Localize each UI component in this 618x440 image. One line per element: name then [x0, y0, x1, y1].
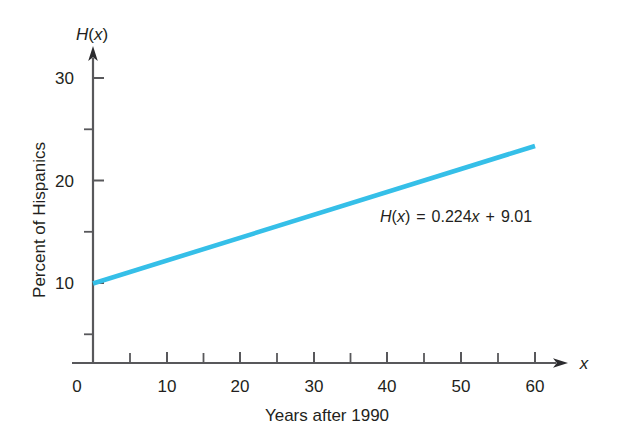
chart-figure: 30 20 10 H(x) Percent of Hispanics — [0, 0, 618, 440]
equation-plus: + — [486, 208, 495, 225]
x-tick-label-20: 20 — [231, 377, 250, 396]
equation-constant: 9.01 — [501, 208, 532, 225]
x-tick-label-50: 50 — [452, 377, 471, 396]
linear-function-chart: 30 20 10 H(x) Percent of Hispanics — [0, 0, 618, 440]
x-tick-label-40: 40 — [378, 377, 397, 396]
equation-coef-var: x — [471, 208, 481, 225]
y-axis-symbol-var: x — [93, 25, 103, 44]
equation-annotation: H(x)=0.224x+9.01 — [380, 208, 532, 225]
equation-close-paren: ) — [405, 208, 410, 225]
x-tick-label-30: 30 — [305, 377, 324, 396]
y-axis-symbol-func: H — [76, 25, 89, 44]
x-tick-label-60: 60 — [526, 377, 545, 396]
x-tick-label-0: 0 — [72, 377, 81, 396]
x-axis-symbol-label: x — [579, 354, 589, 373]
y-axis-title: Percent of Hispanics — [30, 142, 49, 298]
equation-equals: = — [416, 208, 425, 225]
y-tick-label-30: 30 — [55, 69, 74, 88]
equation-coefficient: 0.224 — [432, 208, 472, 225]
y-tick-label-10: 10 — [55, 274, 74, 293]
equation-func-name: H — [380, 208, 392, 225]
x-axis-title: Years after 1990 — [265, 406, 389, 425]
y-axis-symbol-label: H(x) — [76, 25, 108, 44]
y-axis-symbol-close: ) — [102, 25, 108, 44]
y-tick-label-20: 20 — [55, 172, 74, 191]
x-tick-label-10: 10 — [158, 377, 177, 396]
